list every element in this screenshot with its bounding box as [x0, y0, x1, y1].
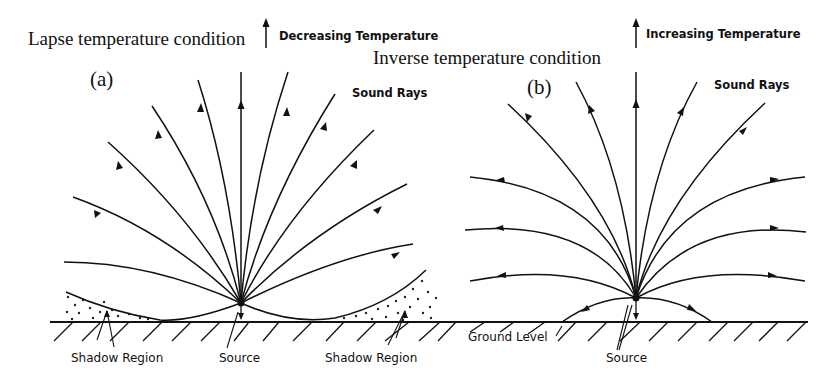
- panel-b-sound-rays-label: Sound Rays: [714, 78, 790, 92]
- source-b-label: Source: [606, 351, 647, 365]
- panel-b-inverse: Inverse temperature condition Increasing…: [373, 18, 806, 322]
- increasing-temperature-arrow-icon: [633, 18, 640, 48]
- panel-a-sound-rays-label: Sound Rays: [352, 86, 428, 100]
- shadow-region-right-label: Shadow Region: [325, 351, 417, 365]
- ground-hatching: [54, 322, 806, 341]
- panel-a-letter: (a): [90, 67, 113, 91]
- ground-line: [50, 322, 808, 341]
- panel-b-sound-rays: [465, 72, 806, 322]
- source-b-leader: [619, 305, 632, 350]
- source-a-leader: [227, 312, 238, 348]
- source-a-label: Source: [219, 351, 260, 365]
- source-b-point: [633, 295, 640, 321]
- panel-a-condition-label: Lapse temperature condition: [28, 28, 246, 49]
- panel-a-bottom-labels: Shadow Region Source Shadow Region: [71, 310, 417, 365]
- panel-b-letter: (b): [527, 75, 552, 99]
- increasing-temperature-label: Increasing Temperature: [646, 27, 801, 41]
- panel-b-bottom-labels: Ground Level Source: [468, 305, 647, 365]
- decreasing-temperature-label: Decreasing Temperature: [279, 29, 439, 43]
- decreasing-temperature-arrow-icon: [263, 18, 270, 48]
- shadow-region-right-dots: [343, 280, 437, 321]
- shadow-region-left-label: Shadow Region: [71, 351, 163, 365]
- source-a-point: [238, 300, 245, 321]
- ground-level-label: Ground Level: [468, 330, 548, 344]
- sound-propagation-diagram: Lapse temperature condition Decreasing T…: [0, 0, 837, 385]
- panel-b-condition-label: Inverse temperature condition: [373, 47, 601, 68]
- panel-a-sound-rays: [64, 72, 426, 320]
